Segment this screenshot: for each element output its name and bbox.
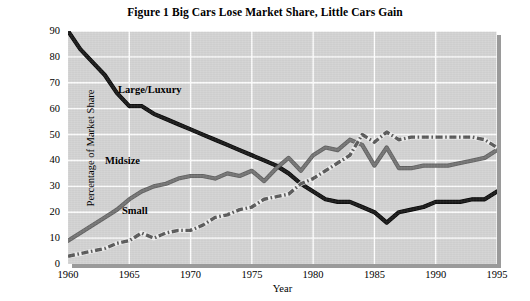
plot-area: [68, 31, 497, 264]
x-axis-title: Year: [68, 283, 497, 294]
x-tick-label: 1965: [99, 270, 159, 281]
x-tick-label: 1980: [283, 270, 343, 281]
x-tick-label: 1960: [38, 270, 98, 281]
figure-container: Figure 1 Big Cars Lose Market Share, Lit…: [0, 0, 530, 301]
y-tick-label: 80: [30, 52, 60, 63]
plot-frame: Percentage of Market Share: [68, 31, 497, 264]
x-tick-label: 1975: [222, 270, 282, 281]
y-tick-label: 10: [30, 233, 60, 244]
y-tick-label: 20: [30, 207, 60, 218]
y-tick-label: 70: [30, 78, 60, 89]
y-tick-label: 30: [30, 181, 60, 192]
y-tick-label: 90: [30, 26, 60, 37]
series-annotation-small: Small: [122, 206, 148, 217]
series-annotation-midsize: Midsize: [105, 156, 140, 167]
y-tick-label: 40: [30, 155, 60, 166]
gridlines: [68, 31, 497, 264]
series-lines: [68, 31, 497, 256]
x-tick-label: 1985: [344, 270, 404, 281]
chart-canvas: [68, 31, 497, 264]
y-tick-label: 0: [30, 259, 60, 270]
y-tick-label: 60: [30, 103, 60, 114]
y-tick-label: 50: [30, 129, 60, 140]
x-tick-label: 1995: [467, 270, 527, 281]
y-axis-title: Percentage of Market Share: [85, 48, 96, 248]
x-tick-label: 1990: [406, 270, 466, 281]
series-annotation-large-luxury: Large/Luxury: [118, 85, 182, 96]
x-tick-label: 1970: [161, 270, 221, 281]
